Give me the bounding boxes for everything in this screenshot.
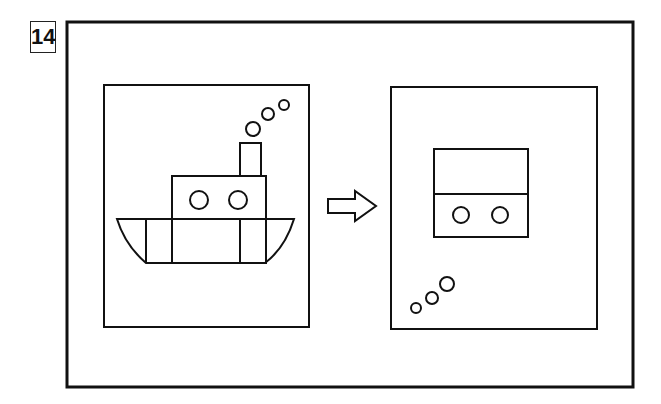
left-panel xyxy=(104,85,309,327)
boat-icon xyxy=(117,100,294,263)
right-panel xyxy=(391,87,597,329)
outer-frame xyxy=(67,22,633,387)
puzzle-figure xyxy=(0,0,661,404)
right-arrow-icon xyxy=(328,191,376,221)
